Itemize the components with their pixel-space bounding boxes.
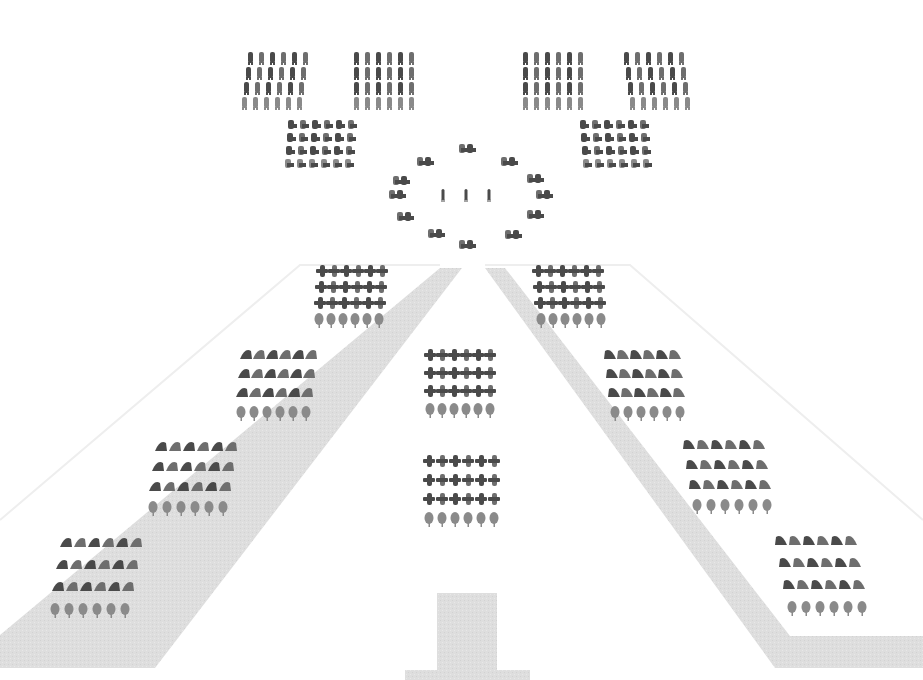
ring-pair [505,230,522,239]
diagram-canvas [0,0,923,680]
ring-pair [459,144,476,153]
center-ring-formation [389,144,553,249]
center-lower-block [423,455,500,527]
path-stem-base [405,670,530,680]
right-block-4 [775,536,867,616]
pyramid-path [0,268,923,680]
ring-pair [389,190,406,199]
ring-pair [527,174,544,183]
path-center-stem [437,593,497,680]
ring-pair [527,210,544,219]
ring-pair [393,176,410,185]
ring-inner-figure [488,189,491,202]
second-row-block-right [580,120,652,168]
upper-right-block [532,265,606,328]
top-row-block-1 [242,52,308,110]
top-row-block-4 [624,52,690,110]
ring-inner-figure [465,189,468,202]
right-block-2 [604,350,685,421]
center-upper-block [424,349,496,418]
ring-pair [536,190,553,199]
ring-inner-figure [442,189,445,202]
top-row-block-3 [523,52,583,110]
ring-pair [428,229,445,238]
ring-pair [417,157,434,166]
ring-pair [459,240,476,249]
top-row-block-2 [354,52,414,110]
second-row-block-left [285,120,357,168]
right-block-3 [683,440,772,514]
formation-diagram: Formation layout of figures arranged in … [0,0,923,680]
ring-pair [501,157,518,166]
upper-left-block [314,265,388,328]
ring-pair [397,212,414,221]
